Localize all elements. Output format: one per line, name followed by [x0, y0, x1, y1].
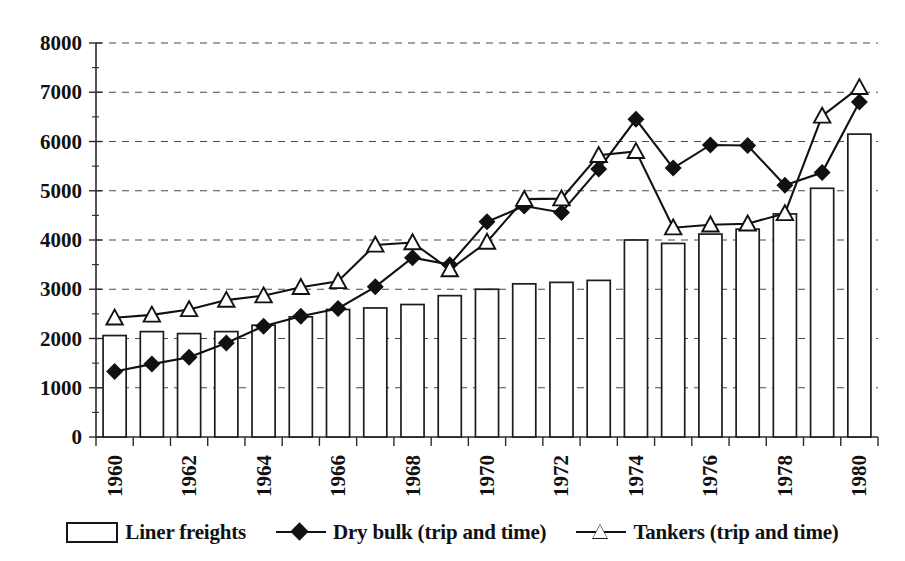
y-axis-label: 8000: [40, 31, 82, 55]
bar: [289, 317, 312, 437]
y-axis-label: 7000: [40, 80, 82, 104]
bar: [140, 332, 163, 437]
y-axis-label: 2000: [40, 327, 82, 351]
data-point-marker-diamond: [815, 165, 830, 180]
bar: [327, 309, 350, 437]
x-axis-label: 1972: [549, 455, 573, 497]
data-point-marker-diamond: [852, 95, 867, 110]
legend-label-liner-freights: Liner freights: [125, 520, 246, 545]
legend-item-dry-bulk: Dry bulk (trip and time): [276, 520, 546, 545]
data-point-marker-triangle: [404, 234, 420, 249]
bar: [699, 234, 722, 437]
x-axis-label: 1974: [624, 455, 648, 498]
y-axis-label: 1000: [40, 376, 82, 400]
bar: [587, 280, 610, 437]
legend-item-liner-freights: Liner freights: [66, 520, 246, 545]
legend-item-tankers: Tankers (trip and time): [576, 520, 838, 545]
x-axis-label: 1978: [773, 455, 797, 497]
data-point-marker-triangle: [814, 108, 830, 123]
data-point-marker-triangle: [628, 143, 644, 158]
plot-area: 0100020003000400050006000700080001960196…: [0, 0, 905, 500]
bar: [624, 240, 647, 437]
y-axis-label: 6000: [40, 130, 82, 154]
x-axis-label: 1980: [847, 455, 871, 497]
x-axis-label: 1962: [177, 455, 201, 497]
bar: [736, 229, 759, 437]
x-axis-label: 1960: [103, 455, 127, 497]
y-axis-label: 4000: [40, 228, 82, 252]
data-point-marker-triangle: [777, 205, 793, 220]
legend-label-dry-bulk: Dry bulk (trip and time): [333, 520, 546, 545]
chart-canvas: 0100020003000400050006000700080001960196…: [0, 0, 905, 500]
x-axis-label: 1964: [252, 455, 276, 498]
x-axis-label: 1970: [475, 455, 499, 497]
diamond-line-swatch-icon: [276, 523, 326, 541]
bar: [811, 188, 834, 437]
bar: [438, 296, 461, 437]
x-axis-label: 1976: [698, 455, 722, 497]
data-point-marker-diamond: [703, 137, 718, 152]
data-point-marker-triangle: [851, 79, 867, 94]
bar: [401, 305, 424, 437]
bar: [550, 282, 573, 437]
x-axis-label: 1966: [326, 455, 350, 497]
bar-swatch-icon: [66, 522, 118, 543]
y-axis-label: 3000: [40, 277, 82, 301]
triangle-line-swatch-icon: [576, 523, 626, 541]
bar: [513, 284, 536, 437]
chart-root: 0100020003000400050006000700080001960196…: [0, 0, 905, 561]
bar: [475, 289, 498, 437]
bar: [364, 308, 387, 437]
bar: [848, 134, 871, 437]
legend-label-tankers: Tankers (trip and time): [633, 520, 838, 545]
y-axis-label: 5000: [40, 179, 82, 203]
bar: [103, 336, 126, 437]
y-axis-label: 0: [72, 425, 83, 449]
bar: [662, 243, 685, 437]
x-axis-label: 1968: [401, 455, 425, 497]
bar: [252, 325, 275, 437]
chart-legend: Liner freights Dry bulk (trip and time) …: [0, 503, 905, 561]
bar: [773, 214, 796, 437]
